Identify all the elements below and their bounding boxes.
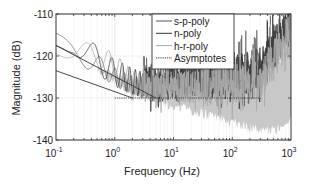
legend-entry-label: h-r-poly [174, 41, 208, 52]
x-tick-label: 10-1 [45, 146, 62, 159]
x-tick-label: 101 [164, 146, 179, 159]
legend-entry-label: Asymptotes [174, 53, 226, 64]
legend-entry-label: s-p-poly [174, 16, 210, 27]
legend-entry-label: n-poly [174, 28, 201, 39]
y-tick-label: -120 [33, 51, 53, 62]
x-tick-label: 103 [281, 146, 296, 159]
y-tick-labels: -110-120-130-140 [33, 9, 53, 146]
magnitude-frequency-chart: -110-120-130-140 10-1100101102103 Freque… [0, 0, 313, 185]
y-tick-label: -140 [33, 135, 53, 146]
y-tick-label: -130 [33, 93, 53, 104]
x-tick-labels: 10-1100101102103 [45, 146, 296, 159]
x-tick-label: 100 [105, 146, 120, 159]
y-tick-label: -110 [34, 9, 54, 20]
x-tick-label: 102 [223, 146, 238, 159]
x-axis-label: Frequency (Hz) [124, 165, 200, 177]
legend: s-p-polyn-polyh-r-polyAsymptotes [152, 14, 234, 69]
y-axis-label: Magnitude (dB) [10, 40, 22, 115]
